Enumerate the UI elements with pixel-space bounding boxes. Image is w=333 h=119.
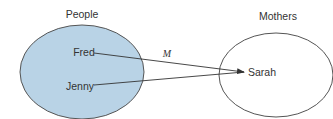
element-sarah: Sarah: [248, 66, 276, 78]
element-jenny: Jenny: [66, 80, 95, 92]
people-set-ellipse: [20, 25, 144, 119]
people-set-label: People: [66, 8, 99, 20]
element-fred: Fred: [73, 46, 95, 58]
mothers-set-label: Mothers: [259, 10, 297, 22]
function-mapping-diagram: People Mothers Fred Jenny Sarah M: [0, 0, 333, 119]
mapping-label-m: M: [162, 48, 172, 59]
